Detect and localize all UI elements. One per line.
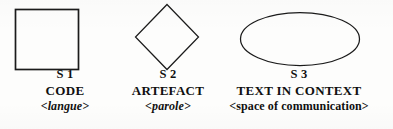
level-name-label: ARTEFACT <box>118 84 218 97</box>
shape-area-artefact <box>118 0 218 70</box>
diagram-group-text-in-context: S 3 TEXT IN CONTEXT <space of communicat… <box>205 0 393 129</box>
level-gloss-label: <langue> <box>0 100 130 112</box>
caption-code: S 1 CODE <langue> <box>0 68 130 112</box>
diagram-group-code: S 1 CODE <langue> <box>0 0 130 129</box>
diagram-group-artefact: S 2 ARTEFACT <parole> <box>118 0 218 129</box>
shape-area-code <box>0 0 130 70</box>
shape-area-text-in-context <box>205 0 393 70</box>
level-id-label: S 1 <box>0 68 130 81</box>
square-shape <box>13 7 83 73</box>
caption-artefact: S 2 ARTEFACT <parole> <box>118 68 218 112</box>
ellipse-shape <box>238 10 362 68</box>
level-id-label: S 3 <box>205 68 393 81</box>
level-gloss-label: <parole> <box>118 100 218 112</box>
level-gloss-label: <space of communication> <box>205 100 393 112</box>
caption-text-in-context: S 3 TEXT IN CONTEXT <space of communicat… <box>205 68 393 112</box>
level-name-label: CODE <box>0 84 130 97</box>
semiotics-three-level-diagram: S 1 CODE <langue> S 2 ARTEFACT <parole> … <box>0 0 393 129</box>
level-id-label: S 2 <box>118 68 218 81</box>
diamond-shape <box>133 2 201 72</box>
level-name-label: TEXT IN CONTEXT <box>205 84 393 97</box>
